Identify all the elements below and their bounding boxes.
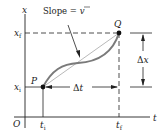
xi-label: xi <box>14 82 21 93</box>
slope-pointer-arrowhead <box>76 50 80 58</box>
delta-x-arrowhead-up <box>141 34 145 41</box>
horizontal-axis-label: t <box>153 113 157 123</box>
delta-x-label: Δx <box>137 55 149 65</box>
point-q-label: Q <box>114 19 122 29</box>
slope-pointer <box>68 25 78 53</box>
position-time-diagram: x t O xf xi ti tf P Q Slope = v Δt Δx <box>0 0 167 139</box>
point-q <box>117 31 122 36</box>
secant-chord <box>43 33 119 87</box>
slope-label: Slope = v <box>43 6 85 16</box>
point-p-label: P <box>30 76 38 86</box>
delta-t-arrowhead-right <box>111 85 118 89</box>
ti-label: ti <box>40 120 46 131</box>
point-p <box>41 85 46 90</box>
vertical-axis-label: x <box>22 5 27 15</box>
delta-t-label: Δt <box>73 83 84 93</box>
xf-label: xf <box>14 28 22 39</box>
delta-x-arrowhead-down <box>141 79 145 86</box>
origin-label: O <box>13 119 21 129</box>
delta-t-arrowhead-left <box>45 85 52 89</box>
tf-label: tf <box>116 120 123 131</box>
